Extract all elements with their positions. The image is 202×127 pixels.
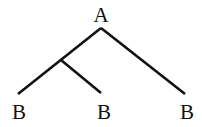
edge-root-right [101, 28, 185, 94]
root-node-label: A [93, 3, 109, 27]
leaf-node-label-1: B [12, 100, 26, 124]
leaf-node-label-2: B [97, 100, 111, 124]
edge-inner-middle [61, 60, 101, 93]
tree-diagram: A B B B [0, 0, 202, 127]
leaf-node-label-3: B [180, 100, 194, 124]
